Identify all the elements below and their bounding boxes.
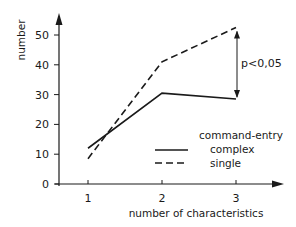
legend-label-complex: complex [210,143,255,155]
x-axis: 123 [55,180,284,205]
y-tick-label: 40 [35,59,49,72]
x-tick-label: 2 [159,192,166,205]
y-tick-label: 50 [35,29,49,42]
y-tick-label: 30 [35,89,49,102]
x-axis-label: number of characteristics [129,207,264,219]
legend-title: command-entry [199,129,283,141]
x-tick-label: 3 [233,192,240,205]
y-axis: 01020304050 [35,13,63,191]
x-tick-label: 1 [85,192,92,205]
y-axis-label: number [15,19,27,61]
legend: command-entry complex single [155,129,283,169]
significance-annotation: p<0,05 [237,32,282,98]
y-tick-label: 0 [42,178,49,191]
legend-label-single: single [210,157,241,169]
x-axis-arrow-icon [272,181,284,188]
y-tick-label: 20 [35,118,49,131]
chart: 01020304050 123 number number of charact… [0,0,296,227]
y-axis-arrow-icon [56,13,63,25]
y-tick-label: 10 [35,148,49,161]
significance-label: p<0,05 [241,57,282,70]
